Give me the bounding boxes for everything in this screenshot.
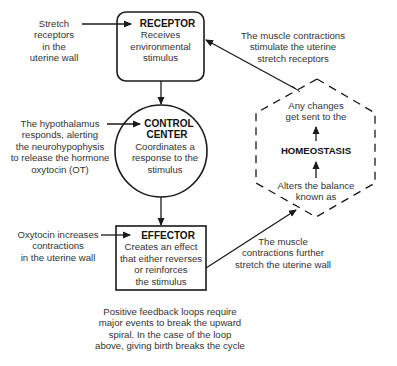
annotation-line: to release the hormone (10, 152, 110, 163)
footer-line: above, giving birth breaks the cycle (80, 340, 260, 351)
control-center-line: Coordinates a (118, 141, 208, 152)
annotation-line: in the (28, 41, 80, 52)
control-center-line: response to the (118, 152, 208, 163)
homeostasis-title: HOMEOSTASIS (266, 145, 366, 156)
footer-line: major events to break the upward (80, 317, 260, 328)
footer-line: spiral. In the case of the loop (80, 329, 260, 340)
annotation-line: The hypothalamus (10, 118, 110, 129)
annotation-oxytocin: Oxytocin increases contractions in the u… (14, 229, 102, 263)
annotation-line: oxytocin (OT) (10, 164, 110, 175)
annotation-line: Oxytocin increases (14, 229, 102, 240)
annotation-hypothalamus: The hypothalamus responds, alerting the … (10, 118, 110, 175)
annotation-line: The muscle (228, 236, 338, 247)
homeostasis-bottom-label: Alters the balance known as (262, 180, 370, 203)
effector-line: the stimulus (116, 276, 206, 287)
effector-label: EFFECTOR Creates an effect that either r… (116, 230, 206, 287)
annotation-line: responds, alerting (10, 129, 110, 140)
footer-line: Positive feedback loops require (80, 306, 260, 317)
control-center-line: stimulus (118, 164, 208, 175)
homeostasis-top-line: get sent to the (266, 111, 366, 122)
receptor-label: RECEPTOR Receives environmental stimulus (117, 18, 204, 64)
annotation-line: uterine wall (28, 52, 80, 63)
annotation-muscle-stimulate: The muscle contractions stimulate the ut… (238, 30, 348, 64)
homeostasis-top-label: Any changes get sent to the (266, 100, 366, 123)
effector-title: EFFECTOR (116, 230, 206, 241)
annotation-line: contractions further (228, 247, 338, 258)
annotation-stretch-receptors: Stretch receptors in the uterine wall (28, 18, 80, 64)
homeostasis-top-line: Any changes (266, 100, 366, 111)
annotation-line: contractions (14, 240, 102, 251)
annotation-line: stimulate the uterine (238, 41, 348, 52)
effector-line: or reinforces (116, 264, 206, 275)
annotation-line: The muscle contractions (238, 30, 348, 41)
annotation-muscle-further: The muscle contractions further stretch … (228, 236, 338, 270)
annotation-line: receptors (28, 29, 80, 40)
footer-note: Positive feedback loops require major ev… (80, 306, 260, 352)
annotation-line: the neurohypophysis (10, 141, 110, 152)
control-center-label: CONTROL CENTER Coordinates a response to… (118, 118, 208, 175)
control-center-title: CONTROL (118, 118, 208, 129)
effector-line: Creates an effect (116, 241, 206, 252)
annotation-line: stretch receptors (238, 53, 348, 64)
receptor-line: environmental (117, 41, 204, 52)
annotation-line: Stretch (28, 18, 80, 29)
homeostasis-bottom-line: known as (262, 191, 370, 202)
effector-line: that either reverses (116, 253, 206, 264)
homeostasis-bottom-line: Alters the balance (262, 180, 370, 191)
receptor-line: Receives (117, 29, 204, 40)
receptor-title: RECEPTOR (117, 18, 204, 29)
control-center-title: CENTER (118, 129, 208, 140)
annotation-line: stretch the uterine wall (228, 259, 338, 270)
receptor-line: stimulus (117, 52, 204, 63)
annotation-line: in the uterine wall (14, 252, 102, 263)
